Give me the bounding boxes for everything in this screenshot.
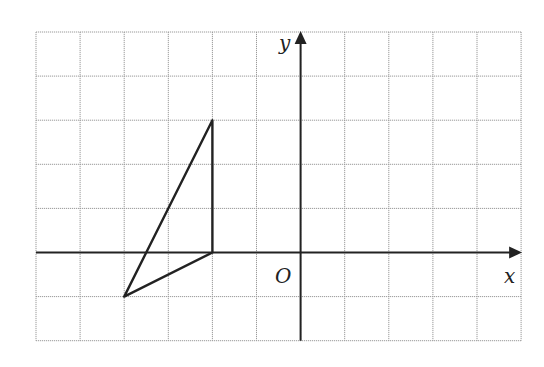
axes [36,31,522,341]
origin-label: O [275,264,291,288]
x-axis-label: x [504,264,515,288]
y-axis-label: y [278,31,291,55]
grid-lines [36,32,521,341]
coordinate-grid-diagram: x y O [0,0,544,367]
